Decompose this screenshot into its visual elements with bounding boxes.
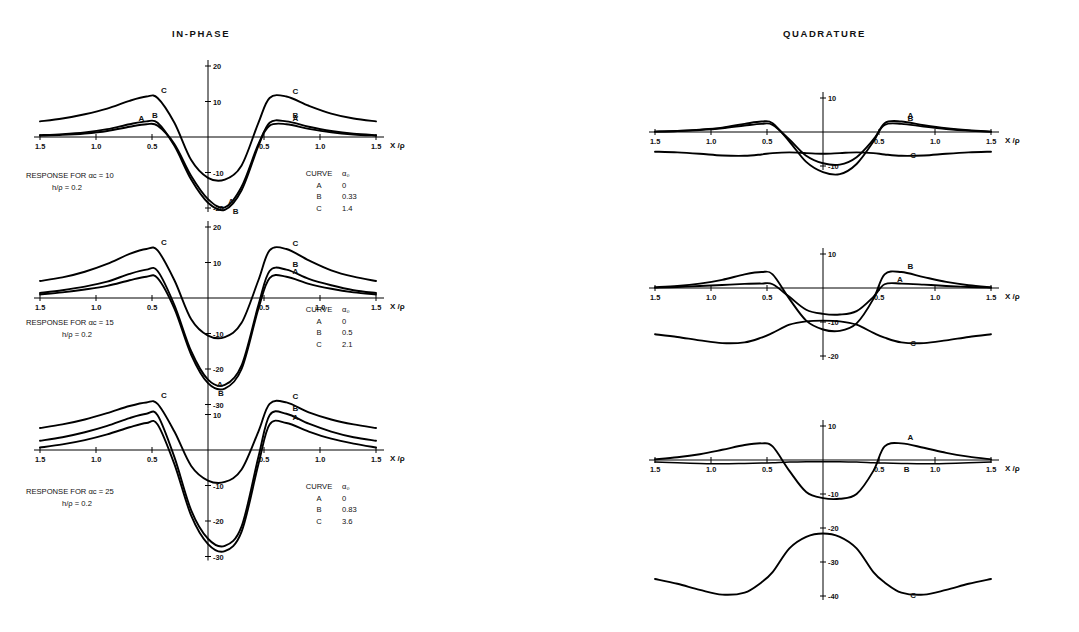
curve-end-label-c: C: [292, 392, 298, 401]
x-tick-label: 1.5: [986, 293, 996, 302]
response-note-inphase-3-line1: RESPONSE FOR αc = 25: [26, 487, 114, 496]
legend-row-alpha: 2.1: [342, 339, 382, 351]
curve-end-label-c: C: [292, 87, 298, 96]
x-tick-label: 1.0: [930, 137, 940, 146]
x-tick-label: 0.5: [762, 137, 772, 146]
y-tick-label: -30: [213, 401, 224, 410]
x-tick-label: 1.5: [371, 455, 381, 464]
panel-inphase-3: 1.51.00.50.51.01.5X /ρ10-10-20-30ABCC: [34, 391, 405, 561]
x-tick-label: 1.0: [91, 142, 101, 151]
response-note-inphase-3-line2: h/ρ = 0.2: [62, 499, 92, 508]
curve-end-label-b: B: [292, 260, 298, 269]
legend-row-alpha: 0: [342, 493, 382, 505]
panel-quad-1: 1.51.00.50.51.01.5X /ρ10-10ABC: [649, 92, 1020, 175]
x-tick-label: 1.0: [91, 455, 101, 464]
y-tick-label: -10: [828, 162, 839, 171]
y-tick-label: -10: [828, 490, 839, 499]
y-tick-label: -10: [828, 318, 839, 327]
y-tick-label: 10: [828, 94, 836, 103]
y-tick-label: -40: [828, 592, 839, 601]
curve-end-label-c: C: [910, 339, 916, 348]
x-axis-label: X /ρ: [1005, 464, 1020, 473]
legend-row-curve: B: [296, 327, 342, 339]
x-tick-label: 0.5: [259, 142, 269, 151]
x-axis-label: X /ρ: [1005, 136, 1020, 145]
curve-end-label-c: C: [910, 591, 916, 600]
x-tick-label: 1.0: [91, 303, 101, 312]
curve-end-label-a: A: [907, 433, 913, 442]
legend-row-alpha: 0.33: [342, 191, 382, 203]
x-tick-label: 1.5: [986, 137, 996, 146]
legend-row-curve: B: [296, 191, 342, 203]
legend-row-alpha: 0: [342, 316, 382, 328]
curve-left-label-c: C: [161, 391, 167, 400]
curve-left-label-b: B: [152, 111, 158, 120]
curve-end-label-c: C: [910, 151, 916, 160]
curve-trough-label-b: B: [233, 207, 239, 216]
legend-header-alpha: α₀: [342, 304, 382, 316]
y-tick-label: -10: [213, 169, 224, 178]
curve-end-label-a: A: [897, 275, 903, 284]
y-tick-label: -20: [828, 524, 839, 533]
y-tick-label: -30: [828, 558, 839, 567]
legend-row-alpha: 0: [342, 180, 382, 192]
curve-end-label-b: B: [904, 465, 910, 474]
figure-root: IN-PHASE QUADRATURE 1.51.00.50.51.01.5X …: [0, 0, 1079, 632]
y-tick-label: 10: [828, 250, 836, 259]
curve-trough-label-a: A: [228, 197, 234, 206]
y-tick-label: -20: [828, 352, 839, 361]
x-tick-label: 1.0: [930, 293, 940, 302]
legend-row-alpha: 1.4: [342, 203, 382, 215]
legend-row-alpha: 0.83: [342, 504, 382, 516]
legend-header-curve: CURVE: [296, 481, 342, 493]
y-tick-label: 20: [213, 223, 221, 232]
x-tick-label: 1.5: [35, 303, 45, 312]
x-tick-label: 0.5: [762, 293, 772, 302]
curve-end-label-a: A: [292, 413, 298, 422]
y-tick-label: 10: [213, 98, 221, 107]
x-tick-label: 1.5: [650, 137, 660, 146]
legend-header-alpha: α₀: [342, 168, 382, 180]
curve-end-label-b: B: [907, 262, 913, 271]
legend-header-alpha: α₀: [342, 481, 382, 493]
curve-end-label-c: C: [292, 239, 298, 248]
x-axis-label: X /ρ: [390, 302, 405, 311]
x-tick-label: 1.0: [706, 293, 716, 302]
x-tick-label: 1.5: [35, 142, 45, 151]
x-tick-label: 1.5: [986, 465, 996, 474]
x-tick-label: 1.0: [315, 142, 325, 151]
x-tick-label: 1.5: [35, 455, 45, 464]
response-note-inphase-2-line2: h/ρ = 0.2: [62, 330, 92, 339]
legend-row-curve: C: [296, 339, 342, 351]
legend-row-alpha: 0.5: [342, 327, 382, 339]
legend-row-curve: A: [296, 316, 342, 328]
curve-left-label-c: C: [161, 86, 167, 95]
plots-svg: 1.51.00.50.51.01.5X /ρ2010-10-20ABCCABAB…: [0, 0, 1079, 632]
y-tick-label: 10: [213, 411, 221, 420]
panel-quad-3: 1.51.00.50.51.01.5X /ρ10-10-20-30-40ABC: [649, 420, 1020, 601]
y-tick-label: 20: [213, 62, 221, 71]
legend-row-curve: A: [296, 180, 342, 192]
x-tick-label: 1.5: [650, 465, 660, 474]
y-tick-label: 10: [828, 422, 836, 431]
legend-inphase-2: CURVE α₀ A 0 B 0.5 C 2.1: [296, 304, 382, 350]
x-tick-label: 0.5: [147, 455, 157, 464]
response-note-inphase-1-line2: h/ρ = 0.2: [52, 183, 82, 192]
curve-trough-label-b: B: [218, 389, 224, 398]
legend-row-curve: C: [296, 203, 342, 215]
curve-left-label-c: C: [161, 238, 167, 247]
x-axis-label: X /ρ: [1005, 292, 1020, 301]
legend-row-alpha: 3.6: [342, 516, 382, 528]
response-note-inphase-2-line1: RESPONSE FOR αc = 15: [26, 318, 114, 327]
legend-row-curve: B: [296, 504, 342, 516]
curve-left-label-a: A: [139, 114, 145, 123]
x-tick-label: 0.5: [762, 465, 772, 474]
curve-trough-label-a: A: [217, 380, 223, 389]
legend-row-curve: C: [296, 516, 342, 528]
x-tick-label: 1.0: [706, 465, 716, 474]
x-tick-label: 1.5: [371, 142, 381, 151]
x-tick-label: 1.0: [930, 465, 940, 474]
y-tick-label: -20: [213, 517, 224, 526]
x-tick-label: 1.5: [650, 293, 660, 302]
panel-quad-2: 1.51.00.50.51.01.5X /ρ10-10-20ABC: [649, 248, 1020, 361]
